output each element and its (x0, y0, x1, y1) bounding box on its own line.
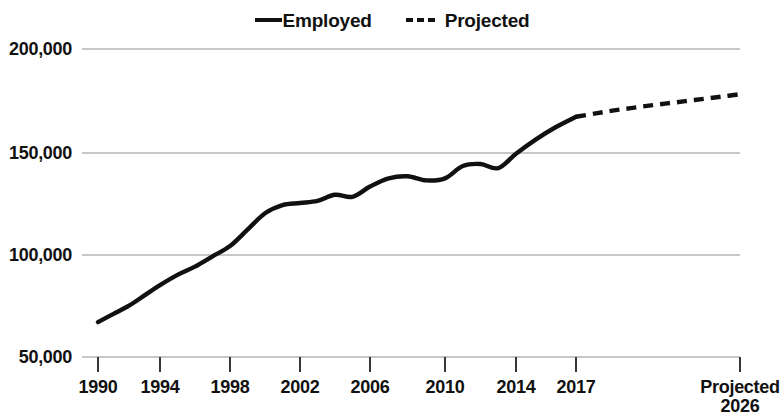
x-tick-label-2006: 2006 (351, 378, 390, 397)
x-tick-label-projected-word: Projected (700, 377, 779, 397)
x-tick-label-1998: 1998 (211, 378, 250, 397)
x-tick-label-1990: 1990 (79, 378, 118, 397)
x-tick-label-2010: 2010 (426, 378, 465, 397)
x-tick-label-2017: 2017 (557, 378, 596, 397)
x-tick-label-2002: 2002 (281, 378, 320, 397)
x-tick-label-2014: 2014 (497, 378, 536, 397)
x-tick-label-1994: 1994 (141, 378, 180, 397)
x-tick-label-projected-2026: Projected 2026 (700, 378, 779, 415)
x-tick-label-projected-year: 2026 (721, 396, 760, 415)
x-axis-labels: 1990 1994 1998 2002 2006 2010 2014 2017 … (0, 0, 784, 415)
employment-line-chart: Employed Projected 200,000 150,000 100,0… (0, 0, 784, 415)
